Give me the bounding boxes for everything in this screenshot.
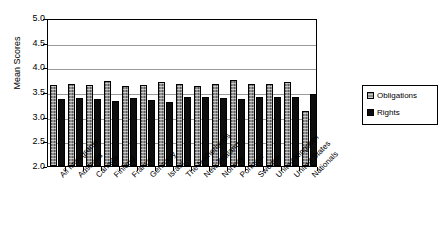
legend-swatch-obligations-icon bbox=[367, 92, 374, 99]
bar-obligations bbox=[50, 85, 57, 166]
bar-obligations bbox=[194, 86, 201, 166]
y-axis-tick-label: 5.0 bbox=[15, 14, 45, 23]
bar-obligations bbox=[176, 84, 183, 166]
bar-group bbox=[50, 20, 65, 166]
bar-rights bbox=[58, 99, 65, 166]
bar-obligations bbox=[122, 86, 129, 166]
bar-obligations bbox=[140, 85, 147, 166]
y-axis-tick-label: 2.5 bbox=[15, 137, 45, 146]
legend-item-obligations: Obligations bbox=[367, 91, 417, 100]
bar-obligations bbox=[248, 84, 255, 166]
y-axis-tick-label: 3.0 bbox=[15, 113, 45, 122]
bar-group bbox=[284, 20, 299, 166]
bar-obligations bbox=[284, 82, 291, 166]
bar-group bbox=[176, 20, 191, 166]
y-axis-tick-label: 2.0 bbox=[15, 162, 45, 171]
bar-group bbox=[158, 20, 173, 166]
bar-chart: Mean Scores 5.04.54.03.53.02.52.0 All Im… bbox=[0, 0, 446, 247]
bar-obligations bbox=[158, 82, 165, 166]
bar-group bbox=[266, 20, 281, 166]
legend-swatch-rights-icon bbox=[367, 109, 374, 116]
bar-group bbox=[104, 20, 119, 166]
bar-obligations bbox=[104, 81, 111, 166]
legend-label-rights: Rights bbox=[377, 108, 400, 117]
bar-group bbox=[122, 20, 137, 166]
bar-rights bbox=[184, 97, 191, 166]
y-axis-tick-label: 3.5 bbox=[15, 88, 45, 97]
legend-item-rights: Rights bbox=[367, 108, 400, 117]
bar-group bbox=[248, 20, 263, 166]
y-axis-tickmark bbox=[43, 167, 47, 168]
bar-group bbox=[194, 20, 209, 166]
y-axis-tick-label: 4.5 bbox=[15, 39, 45, 48]
bar-group bbox=[68, 20, 83, 166]
bar-obligations bbox=[266, 84, 273, 166]
chart-legend: Obligations Rights bbox=[362, 85, 438, 125]
legend-label-obligations: Obligations bbox=[377, 91, 417, 100]
y-axis-tick-label: 4.0 bbox=[15, 63, 45, 72]
bar-group bbox=[140, 20, 155, 166]
bar-obligations bbox=[68, 84, 75, 166]
